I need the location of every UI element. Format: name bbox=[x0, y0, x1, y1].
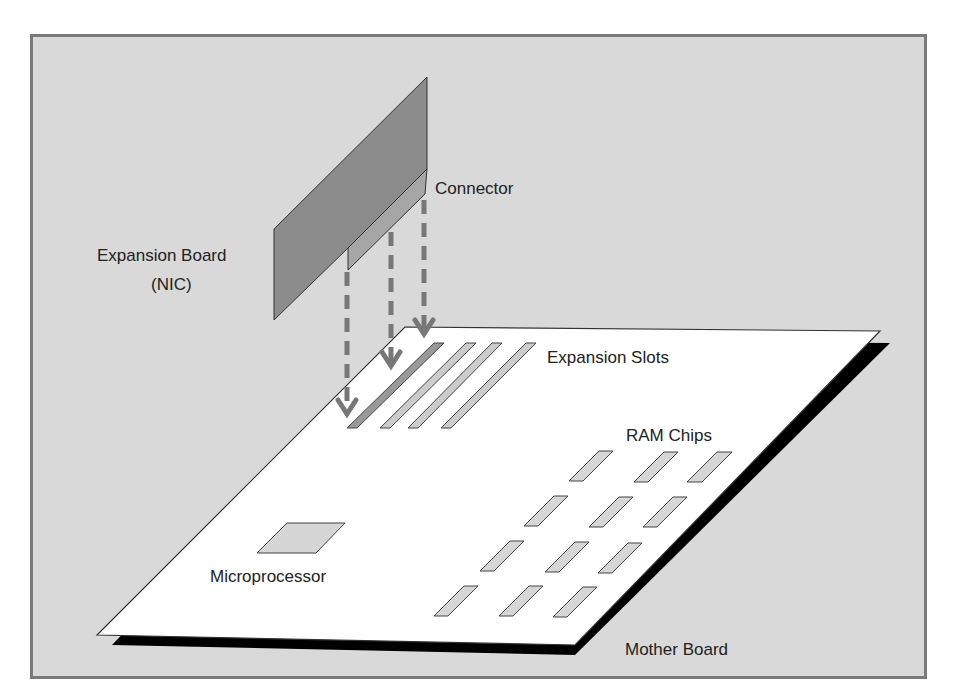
motherboard-diagram: Connector Expansion Board (NIC) Expansio… bbox=[0, 0, 959, 692]
connector-label: Connector bbox=[435, 179, 514, 198]
mother-board-label: Mother Board bbox=[625, 640, 728, 659]
nic-label: (NIC) bbox=[151, 275, 192, 294]
ram-chips-label: RAM Chips bbox=[626, 426, 712, 445]
expansion-slots-label: Expansion Slots bbox=[547, 348, 669, 367]
expansion-board-label: Expansion Board bbox=[97, 246, 226, 265]
microprocessor-label: Microprocessor bbox=[210, 567, 327, 586]
mother-board bbox=[97, 327, 880, 645]
